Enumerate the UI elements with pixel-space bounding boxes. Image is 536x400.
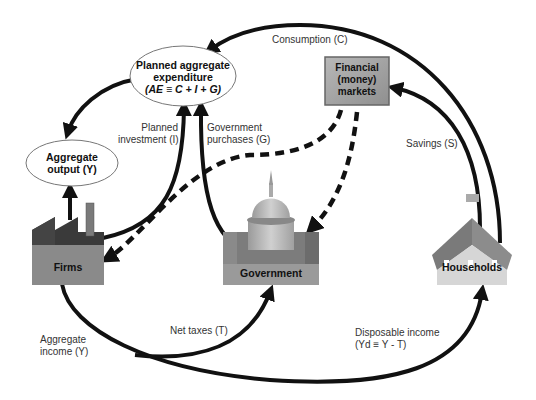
financial-markets-label: Financial (money) markets [325, 62, 389, 98]
aggregate-output-label: Aggregate output (Y) [32, 151, 112, 175]
consumption-label: Consumption (C) [272, 34, 348, 46]
financial-to-government-dashed-arrow [312, 112, 357, 228]
planned-investment-label: Planned investment (I) [118, 122, 178, 146]
aggregate-income-label: Aggregate income (Y) [40, 334, 88, 358]
planned-ae-label: Planned aggregate expenditure (AE ≡ C + … [133, 59, 233, 95]
net-taxes-label: Net taxes (T) [170, 325, 228, 337]
firms-label: Firms [32, 261, 104, 273]
households-label: Households [437, 261, 507, 273]
government-purchases-label: Government purchases (G) [207, 122, 270, 146]
disposable-income-label: Disposable income (Yd ≡ Y - T) [355, 327, 440, 351]
savings-arrow [395, 88, 480, 228]
government-label: Government [223, 267, 319, 279]
savings-label: Savings (S) [406, 138, 458, 150]
